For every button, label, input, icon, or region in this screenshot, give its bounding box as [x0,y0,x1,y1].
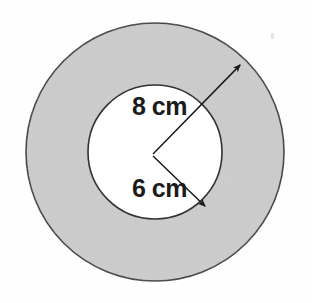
outer-radius-label: 8 cm [132,94,187,119]
scan-artifact-speck [271,33,274,39]
annulus-figure: 8 cm 6 cm [0,0,312,303]
annulus-drawing [0,0,312,303]
inner-radius-label: 6 cm [132,176,187,201]
